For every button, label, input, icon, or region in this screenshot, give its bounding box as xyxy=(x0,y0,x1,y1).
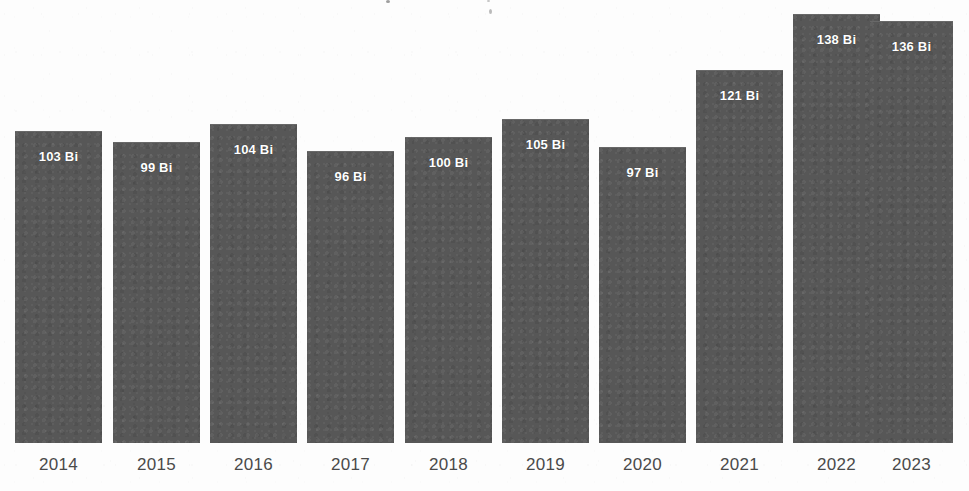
bar[interactable] xyxy=(210,124,297,443)
bar-value-label: 96 Bi xyxy=(307,169,394,184)
bar-group: 97 Bi xyxy=(599,147,686,443)
bar-group: 103 Bi xyxy=(15,131,102,443)
bar-value-label: 104 Bi xyxy=(210,142,297,157)
bar-value-label: 105 Bi xyxy=(502,137,589,152)
bar-chart: 103 Bi99 Bi104 Bi96 Bi100 Bi105 Bi97 Bi1… xyxy=(0,0,969,491)
x-tick-label-2014: 2014 xyxy=(15,455,102,475)
bar-value-label: 103 Bi xyxy=(15,149,102,164)
x-tick-label-2017: 2017 xyxy=(307,455,394,475)
bar-group: 138 Bi xyxy=(793,14,880,443)
x-tick-label-2019: 2019 xyxy=(502,455,589,475)
bar-value-label: 100 Bi xyxy=(405,155,492,170)
bar[interactable] xyxy=(599,147,686,443)
bar[interactable] xyxy=(405,137,492,443)
bar-group: 99 Bi xyxy=(113,142,200,443)
bar-value-label: 138 Bi xyxy=(793,32,880,47)
bar-value-label: 121 Bi xyxy=(696,88,783,103)
bar-value-label: 136 Bi xyxy=(870,39,953,54)
bar[interactable] xyxy=(696,70,783,443)
bar[interactable] xyxy=(15,131,102,443)
bar-group: 104 Bi xyxy=(210,124,297,443)
bar-group: 121 Bi xyxy=(696,70,783,443)
bar-group: 96 Bi xyxy=(307,151,394,443)
x-tick-label-2020: 2020 xyxy=(599,455,686,475)
x-tick-label-2015: 2015 xyxy=(113,455,200,475)
bar-group: 136 Bi xyxy=(870,21,953,443)
bar[interactable] xyxy=(113,142,200,443)
x-tick-label-2018: 2018 xyxy=(405,455,492,475)
bar[interactable] xyxy=(307,151,394,443)
bar[interactable] xyxy=(793,14,880,443)
bar[interactable] xyxy=(502,119,589,443)
bar[interactable] xyxy=(870,21,953,443)
x-tick-label-2021: 2021 xyxy=(696,455,783,475)
x-tick-label-2023: 2023 xyxy=(870,455,953,475)
x-tick-label-2016: 2016 xyxy=(210,455,297,475)
x-tick-label-2022: 2022 xyxy=(793,455,880,475)
bar-value-label: 97 Bi xyxy=(599,165,686,180)
plot-area: 103 Bi99 Bi104 Bi96 Bi100 Bi105 Bi97 Bi1… xyxy=(0,0,969,443)
bar-group: 105 Bi xyxy=(502,119,589,443)
bar-value-label: 99 Bi xyxy=(113,160,200,175)
bar-group: 100 Bi xyxy=(405,137,492,443)
